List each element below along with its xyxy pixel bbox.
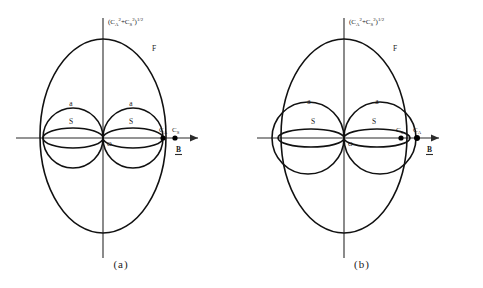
vaxis-plus-b: +C — [362, 18, 371, 26]
speed-label-outer-a: CS — [172, 126, 180, 135]
speed-inner-sub-a: A — [164, 130, 168, 135]
horizontal-axis-label-a: B — [176, 145, 181, 154]
vaxis-sub1-a: A — [115, 22, 119, 27]
vaxis-plus-a: +C — [121, 18, 130, 26]
vaxis-exp-b: 1/2 — [378, 17, 385, 22]
horizontal-axis-label-b: B — [427, 145, 432, 154]
panel-caption-b: (b) — [241, 258, 483, 270]
origin-label-b: O — [348, 140, 353, 147]
marker-dot-outer-b — [414, 135, 420, 141]
vertical-axis-label-a: (CA2+CS2)1/2 — [108, 17, 144, 27]
speed-inner-sub-b: S — [401, 130, 404, 135]
alfven-label-left-a: a — [69, 99, 73, 108]
vaxis-sub2-b: S — [371, 22, 374, 27]
slow-label-left-b: S — [311, 117, 315, 126]
vaxis-exp-a: 1/2 — [137, 17, 144, 22]
axis-arrow-a — [190, 135, 198, 142]
vaxis-sub2-a: S — [130, 22, 133, 27]
axis-arrow-b — [431, 135, 439, 142]
speed-label-inner-b: CS — [396, 126, 404, 135]
panel-a: (CA2+CS2)1/2 F a a S S O CA CS B (a) — [0, 0, 242, 288]
slow-label-right-b: S — [372, 117, 376, 126]
slow-label-left-a: S — [69, 117, 73, 126]
speed-outer-sub-b: A — [418, 130, 422, 135]
speed-label-outer-b: CA — [413, 126, 422, 135]
slow-label-right-a: S — [129, 117, 133, 126]
friedrichs-diagram-figure: (CA2+CS2)1/2 F a a S S O CA CS B (a) — [0, 0, 483, 288]
alfven-label-right-a: a — [129, 99, 133, 108]
speed-outer-sub-a: S — [177, 130, 180, 135]
panel-b: (CA2+CS2)1/2 F a a S S O CS CA B (b) — [241, 0, 483, 288]
marker-dot-outer-a — [172, 135, 177, 140]
origin-label-a: O — [107, 140, 112, 147]
fast-mode-label-a: F — [152, 44, 156, 53]
vaxis-sub1-b: A — [356, 22, 360, 27]
fast-mode-label-b: F — [393, 44, 397, 53]
panel-caption-a: (a) — [0, 258, 242, 270]
marker-dot-inner-a — [160, 135, 165, 140]
marker-dot-inner-b — [398, 135, 403, 140]
vertical-axis-label-b: (CA2+CS2)1/2 — [349, 17, 385, 27]
